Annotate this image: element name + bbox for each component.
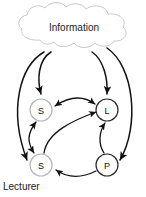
figure-caption: Lecturer <box>3 180 40 193</box>
edge-p-to-l <box>100 123 105 153</box>
node-s-bottom-label: S <box>38 161 44 171</box>
node-p[interactable]: P <box>96 154 118 176</box>
information-cloud: Information <box>19 3 126 48</box>
node-s-top-label: S <box>38 106 44 116</box>
node-p-label: P <box>104 161 110 171</box>
figure-canvas: Information <box>0 0 146 197</box>
edge-p-to-s-bottom <box>56 170 96 176</box>
edge-s-top-s-bottom-bidirectional <box>29 122 36 153</box>
node-s-top[interactable]: S <box>30 99 52 121</box>
node-s-bottom[interactable]: S <box>30 154 52 176</box>
node-l-label: L <box>104 106 109 116</box>
edge-cloud-to-s-top <box>39 52 51 94</box>
edge-s-bottom-to-l <box>44 112 96 153</box>
edge-s-top-l-bidirectional <box>55 98 95 106</box>
node-l[interactable]: L <box>96 99 118 121</box>
edge-cloud-to-l <box>92 52 107 94</box>
information-flow-diagram: Information <box>0 0 146 197</box>
cloud-label: Information <box>49 22 99 33</box>
